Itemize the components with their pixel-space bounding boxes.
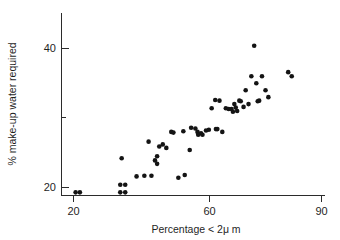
data-point <box>263 88 268 93</box>
data-point <box>181 129 186 134</box>
x-tick-label-90: 90 <box>315 205 327 217</box>
data-point <box>286 70 291 75</box>
data-point <box>189 125 194 130</box>
x-tick-label-60: 60 <box>203 205 215 217</box>
data-point <box>215 127 220 132</box>
data-point <box>187 148 192 153</box>
y-tick-label-20: 20 <box>44 181 56 193</box>
data-point <box>241 105 246 110</box>
data-point <box>164 146 169 151</box>
data-point <box>176 175 181 180</box>
data-point <box>134 174 139 179</box>
data-point <box>209 106 214 111</box>
data-point <box>257 98 262 103</box>
scatter-plot-figure: 40 20 20 60 90 Percentage < 2μ m % make-… <box>0 0 340 240</box>
data-point <box>266 95 271 100</box>
data-point <box>146 139 151 144</box>
x-axis-ticks: 20 60 90 <box>67 196 327 218</box>
x-axis-title: Percentage < 2μ m <box>151 223 240 235</box>
data-point <box>118 182 123 187</box>
data-points-layer <box>73 43 294 194</box>
data-point <box>231 109 236 114</box>
data-point <box>73 190 78 195</box>
data-point <box>142 173 147 178</box>
data-point <box>249 74 254 79</box>
y-axis-title: % make-up water required <box>6 42 18 165</box>
y-tick-label-40: 40 <box>44 42 56 54</box>
plot-canvas: 40 20 20 60 90 Percentage < 2μ m % make-… <box>0 0 340 240</box>
data-point <box>171 130 176 135</box>
data-point <box>207 128 212 133</box>
data-point <box>238 99 243 104</box>
data-point <box>123 182 128 187</box>
data-point <box>118 190 123 195</box>
data-point <box>243 88 248 93</box>
data-point <box>246 102 251 107</box>
data-point <box>213 98 218 103</box>
data-point <box>123 190 128 195</box>
data-point <box>155 154 160 159</box>
data-point <box>119 156 124 161</box>
data-point <box>78 190 83 195</box>
data-point <box>217 98 222 103</box>
x-tick-label-20: 20 <box>67 205 79 217</box>
data-point <box>260 74 265 79</box>
axes-group <box>61 13 325 196</box>
data-point <box>252 43 257 48</box>
y-axis-ticks: 40 20 <box>44 42 69 193</box>
data-point <box>289 74 294 79</box>
data-point <box>254 81 259 86</box>
data-point <box>200 132 205 137</box>
data-point <box>182 173 187 178</box>
data-point <box>220 130 225 135</box>
data-point <box>235 109 240 114</box>
data-point <box>155 162 160 167</box>
data-point <box>160 142 165 147</box>
data-point <box>149 173 154 178</box>
